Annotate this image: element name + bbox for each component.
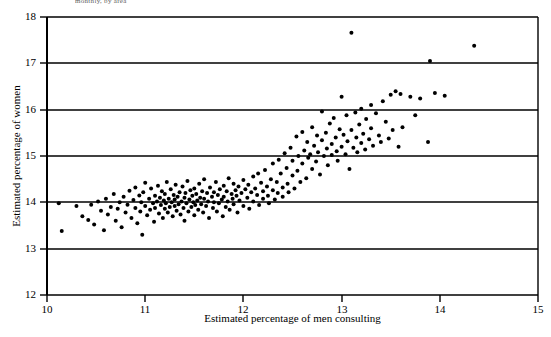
data-point (433, 91, 437, 95)
data-point (237, 198, 241, 202)
data-point (225, 189, 229, 193)
data-point (197, 182, 201, 186)
data-point (178, 190, 182, 194)
data-point (243, 187, 247, 191)
data-point (355, 150, 359, 154)
data-point (92, 223, 96, 227)
data-point (344, 152, 348, 156)
data-point (206, 199, 210, 203)
data-point (289, 146, 293, 150)
data-point (149, 186, 153, 190)
data-point (192, 213, 196, 217)
data-point (177, 202, 181, 206)
data-point (359, 107, 363, 111)
y-axis-label: Estimated percentage of women (10, 56, 22, 256)
data-point (294, 135, 298, 139)
data-point (222, 195, 226, 199)
data-point (175, 209, 179, 213)
data-point (201, 211, 205, 215)
data-point (308, 152, 312, 156)
data-point (281, 186, 285, 190)
data-point (349, 128, 353, 132)
data-point (189, 205, 193, 209)
data-point (340, 95, 344, 99)
data-point (116, 207, 120, 211)
data-point (155, 199, 159, 203)
data-point (324, 131, 328, 135)
data-point (163, 207, 167, 211)
data-point (340, 145, 344, 149)
data-point (199, 202, 203, 206)
data-point (413, 113, 417, 117)
data-point (325, 147, 329, 151)
data-point (99, 209, 103, 213)
data-point (148, 208, 152, 212)
y-axis-ticks (40, 17, 47, 295)
data-point (109, 205, 113, 209)
data-point (141, 190, 145, 194)
data-point (89, 203, 93, 207)
data-point (185, 179, 189, 183)
data-point (296, 154, 300, 158)
data-point (106, 212, 110, 216)
data-point (472, 44, 476, 48)
data-point (257, 203, 261, 207)
data-point (127, 189, 131, 193)
data-point (159, 203, 163, 207)
data-point (335, 149, 339, 153)
data-point (174, 183, 178, 187)
data-point (167, 197, 171, 201)
data-point (363, 148, 367, 152)
data-point (181, 185, 185, 189)
data-point (143, 181, 147, 185)
data-point (179, 212, 183, 216)
data-point (190, 194, 194, 198)
data-point (140, 233, 144, 237)
data-point (222, 184, 226, 188)
data-point (133, 206, 137, 210)
data-point (86, 218, 90, 222)
data-point (193, 203, 197, 207)
data-point (118, 200, 122, 204)
data-point (187, 198, 191, 202)
data-point (381, 99, 385, 103)
data-point (129, 216, 133, 220)
data-point (387, 136, 391, 140)
data-point (357, 122, 361, 126)
data-point (304, 176, 308, 180)
data-point (241, 204, 245, 208)
data-point (384, 120, 388, 124)
data-point (389, 93, 393, 97)
data-point (443, 94, 447, 98)
data-point (328, 122, 332, 126)
data-point (80, 214, 84, 218)
data-point (349, 31, 353, 35)
data-point (266, 194, 270, 198)
data-point (183, 191, 187, 195)
data-point (347, 167, 351, 171)
data-point (400, 125, 404, 129)
data-point (371, 144, 375, 148)
data-point (124, 211, 128, 215)
data-point (253, 186, 257, 190)
data-point (394, 89, 398, 93)
data-point (330, 142, 334, 146)
data-point (265, 185, 269, 189)
data-point (172, 193, 176, 197)
data-point (112, 192, 116, 196)
data-point (192, 186, 196, 190)
data-point (180, 199, 184, 203)
data-point (151, 201, 155, 205)
data-point (241, 178, 245, 182)
data-point (391, 128, 395, 132)
data-point (171, 214, 175, 218)
data-point-group (57, 31, 476, 237)
data-point (314, 160, 318, 164)
data-point (186, 210, 190, 214)
data-point (332, 116, 336, 120)
data-point (164, 201, 168, 205)
data-point (135, 221, 139, 225)
data-point (326, 163, 330, 167)
data-point (256, 172, 260, 176)
data-point (306, 156, 310, 160)
